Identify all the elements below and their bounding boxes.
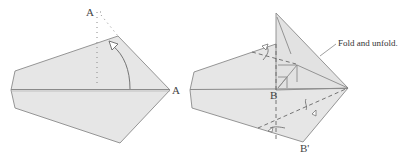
label-point-b-prime: B' <box>300 143 309 154</box>
left-dotted-target-diagonal <box>101 15 118 36</box>
origami-diagram <box>0 0 407 156</box>
right-step-figure <box>190 13 348 142</box>
label-point-a-start: A <box>86 7 94 18</box>
label-point-b: B <box>270 90 277 101</box>
right-kite-paper <box>190 44 348 142</box>
left-step-figure <box>11 12 170 143</box>
caption-fold-and-unfold: Fold and unfold. <box>338 39 398 48</box>
caption-pointer-line <box>320 44 336 56</box>
label-point-a-end: A <box>172 85 180 96</box>
